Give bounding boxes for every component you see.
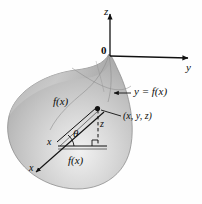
axis-y-label: y	[186, 62, 191, 73]
radius-label: f(x)	[53, 96, 68, 107]
base-label: f(x)	[68, 155, 83, 166]
axis-x-label: x	[29, 163, 33, 173]
x-inner-label: x	[47, 137, 51, 147]
diagram-svg	[0, 0, 202, 204]
solid-of-revolution	[8, 54, 133, 189]
angle-label: θ	[73, 128, 78, 139]
axis-y	[110, 56, 188, 58]
height-label: z	[100, 119, 104, 129]
point-label: (x, y, z)	[123, 111, 152, 121]
point-marker	[95, 106, 100, 111]
axis-z-label: z	[104, 6, 108, 17]
figure-canvas: z y 0 x y = f(x) (x, y, z) f(x) f(x) z θ…	[0, 0, 202, 204]
curve-label: y = f(x)	[134, 86, 167, 97]
origin-label: 0	[101, 45, 107, 56]
